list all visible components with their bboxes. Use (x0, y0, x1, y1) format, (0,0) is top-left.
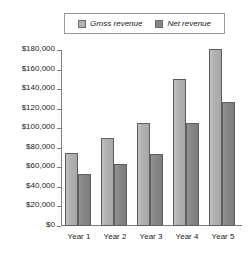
bar-gross-revenue (173, 79, 186, 226)
x-axis-label-year-2: Year 2 (95, 233, 135, 241)
bar-group (97, 50, 133, 226)
y-axis-tick-label: $60,000 (26, 162, 55, 170)
y-axis-tick-label: $140,000 (22, 84, 55, 92)
bar-gross-revenue (101, 138, 114, 226)
chart-legend: Gross revenue Net revenue (64, 13, 225, 34)
bar-net-revenue (150, 154, 163, 226)
bar-group (61, 50, 97, 226)
y-axis-tick-label: $20,000 (26, 201, 55, 209)
y-axis-tick-label: $100,000 (22, 123, 55, 131)
y-axis-tick-label: $120,000 (22, 104, 55, 112)
plot-area: $0$20,000$40,000$60,000$80,000$100,000$1… (61, 50, 241, 226)
bar-gross-revenue (65, 153, 78, 226)
legend-label-net-revenue: Net revenue (167, 20, 211, 28)
bar-gross-revenue (209, 49, 222, 226)
bar-group (205, 50, 241, 226)
bar-net-revenue (186, 123, 199, 226)
bar-series-group (61, 50, 241, 226)
bar-gross-revenue (137, 123, 150, 226)
bar-chart: Gross revenue Net revenue $0$20,000$40,0… (0, 0, 248, 264)
net-revenue-swatch-icon (155, 20, 163, 28)
y-axis-tick-label: $0 (46, 221, 55, 229)
gross-revenue-swatch-icon (78, 20, 86, 28)
x-axis-label-year-4: Year 4 (167, 233, 207, 241)
x-axis-label-year-1: Year 1 (59, 233, 99, 241)
legend-entry-gross-revenue: Gross revenue (78, 20, 142, 28)
y-axis-tick-label: $80,000 (26, 143, 55, 151)
y-axis-tick-label: $180,000 (22, 45, 55, 53)
y-axis-tick-label: $40,000 (26, 182, 55, 190)
bar-group (133, 50, 169, 226)
x-axis-label-year-3: Year 3 (131, 233, 171, 241)
y-axis-tick-mark (57, 226, 61, 227)
bar-net-revenue (222, 102, 235, 226)
bar-net-revenue (78, 174, 91, 226)
legend-entry-net-revenue: Net revenue (155, 20, 211, 28)
bar-group (169, 50, 205, 226)
x-axis-label-year-5: Year 5 (203, 233, 243, 241)
bar-net-revenue (114, 164, 127, 226)
y-axis-tick-label: $160,000 (22, 65, 55, 73)
legend-label-gross-revenue: Gross revenue (90, 20, 142, 28)
